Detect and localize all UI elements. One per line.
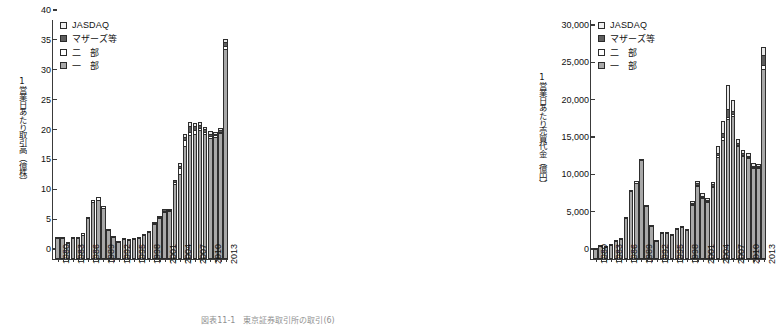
bar-segment-ichibu [203,134,207,259]
bar-segment-ichibu [101,208,105,259]
x-tick-mark [662,259,663,262]
y-tick: 10 [41,184,53,194]
plot-area-volume: 0510152025303540 19801983198619891992199… [52,20,228,260]
x-tick-mark [159,259,160,262]
bar-segment-ichibu [218,133,222,259]
bar-segment-ichibu [147,232,151,259]
x-tick-mark [621,259,622,262]
bar-segment-mothers [726,109,730,117]
bar-segment-ichibu [183,146,187,259]
y-tick-mark [53,9,57,10]
x-tick-mark [139,259,140,262]
x-tick-mark [83,259,84,262]
y-tick-label: 15,000 [561,132,591,142]
y-tick: 5,000 [566,207,591,217]
bar-segment-mothers [761,55,765,65]
x-tick-mark [200,259,201,262]
y-tick: 20,000 [561,95,591,105]
y-tick-label: 20,000 [561,95,591,105]
bar-segment-ichibu [55,238,59,259]
bar-segment-jasdaq [731,100,735,110]
x-tick-mark [149,259,150,262]
x-tick-mark [697,259,698,262]
bar-segment-ichibu [213,137,217,259]
bar-segment-ichibu [670,235,674,259]
x-tick-mark [98,259,99,262]
y-tick: 25,000 [561,57,591,67]
bar-segment-ichibu [116,242,120,259]
bar-segment-ichibu [721,140,725,259]
x-axis-turnover: 1980198319861989199219951998200120042007… [591,259,766,319]
x-tick-mark [631,259,632,262]
y-tick: 20 [41,125,53,135]
x-tick-mark [68,259,69,262]
x-tick-mark [708,259,709,262]
bar-segment-ichibu [639,160,643,259]
x-tick-mark [93,259,94,262]
x-tick-mark [611,259,612,262]
y-tick: 35 [41,35,53,45]
x-tick-mark [78,259,79,262]
x-tick-mark [641,259,642,262]
y-tick: 25 [41,95,53,105]
y-tick-label: 15 [41,154,53,164]
bar-segment-ichibu [761,69,765,259]
x-tick-label: 2013 [229,244,239,264]
x-tick-mark [692,259,693,262]
plot-area-turnover: 05,00010,00015,00020,00025,00030,000 198… [590,20,766,260]
y-tick: 15,000 [561,132,591,142]
x-tick-mark [114,259,115,262]
x-tick-mark [180,259,181,262]
y-tick: 30,000 [561,20,591,30]
bar-group-volume [53,20,228,259]
x-tick-mark [165,259,166,262]
x-axis-volume: 1980198319861989199219951998200120042007… [53,259,228,319]
x-tick-mark [606,259,607,262]
y-tick: 0 [584,244,591,254]
x-tick-mark [221,259,222,262]
bar-segment-ichibu [198,130,202,259]
x-tick-mark [652,259,653,262]
bar-segment-ichibu [624,218,628,259]
x-tick-mark [667,259,668,262]
x-tick-mark [738,259,739,262]
bar-segment-ichibu [86,218,90,259]
x-tick-mark [596,259,597,262]
x-tick-mark [636,259,637,262]
bar-segment-ichibu [193,134,197,259]
bar-segment-jasdaq [716,146,720,154]
x-tick-mark [687,259,688,262]
y-tick-label: 5,000 [566,207,591,217]
bar-column [223,20,228,259]
x-tick-mark [748,259,749,262]
x-tick-mark [764,259,765,262]
x-tick: 2013 [761,259,766,319]
x-tick-mark [226,259,227,262]
x-tick-mark [170,259,171,262]
y-tick-label: 20 [41,125,53,135]
x-tick-mark [205,259,206,262]
bar-segment-ichibu [685,230,689,259]
x-tick-mark [108,259,109,262]
y-tick-label: 5 [46,214,53,224]
x-tick-mark [129,259,130,262]
y-tick: 30 [41,65,53,75]
y-tick-label: 25,000 [561,57,591,67]
bar-segment-ichibu [654,241,658,259]
x-tick-mark [154,259,155,262]
y-tick: 10,000 [561,169,591,179]
y-tick: 40 [41,5,53,15]
x-tick-mark [144,259,145,262]
bar-segment-ichibu [716,157,720,259]
x-tick-mark [657,259,658,262]
x-tick-mark [134,259,135,262]
bar-segment-ichibu [731,116,735,259]
bar-group-turnover [591,20,766,259]
y-tick-label: 0 [584,244,591,254]
x-tick: 2013 [223,259,228,319]
y-tick-label: 10 [41,184,53,194]
x-tick-mark [677,259,678,262]
x-tick-mark [215,259,216,262]
bar-column [761,20,766,259]
